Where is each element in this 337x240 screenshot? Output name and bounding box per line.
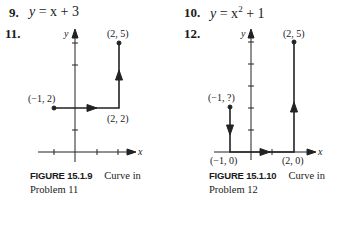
direction-arrow-icon bbox=[260, 149, 270, 156]
y-axis-arrow-icon bbox=[248, 29, 254, 38]
point-label: (2, 5) bbox=[283, 28, 305, 39]
y-axis-label: y bbox=[64, 28, 68, 39]
point-label: (2, 5) bbox=[107, 28, 129, 39]
y-axis-arrow-icon bbox=[72, 29, 78, 38]
point-label: (−1, ?) bbox=[208, 92, 235, 103]
caption-text-2: Problem 11 bbox=[30, 184, 78, 195]
x-axis-label: x bbox=[138, 146, 142, 157]
direction-arrow-icon bbox=[116, 70, 123, 80]
direction-arrow-icon bbox=[291, 102, 298, 112]
caption-label: FIGURE 15.1.9 bbox=[30, 170, 92, 181]
direction-arrow-icon bbox=[227, 125, 234, 135]
point-label: (2, 2) bbox=[107, 113, 129, 124]
caption-text-2: Problem 12 bbox=[209, 184, 258, 195]
figure-15-1-9-caption: FIGURE 15.1.9 Curve in Problem 11 bbox=[30, 168, 141, 196]
caption-text: Curve in bbox=[288, 170, 324, 181]
x-axis-arrow-icon bbox=[127, 149, 136, 155]
x-axis-label: x bbox=[318, 146, 322, 157]
x-axis-arrow-icon bbox=[307, 149, 316, 155]
caption-text: Curve in bbox=[104, 170, 140, 181]
figure-15-1-10-caption: FIGURE 15.1.10 Curve in Problem 12 bbox=[209, 168, 325, 196]
y-axis-label: y bbox=[241, 28, 245, 39]
point-label: (−1, 2) bbox=[28, 93, 55, 104]
direction-arrow-icon bbox=[87, 105, 97, 112]
caption-label: FIGURE 15.1.10 bbox=[209, 170, 276, 181]
point-label: (−1, 0) bbox=[210, 155, 237, 166]
